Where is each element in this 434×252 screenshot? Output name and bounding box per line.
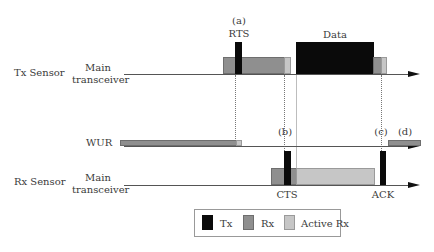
rts-label: RTS <box>222 28 256 40</box>
rx-active-rx-block <box>296 168 375 185</box>
legend: Tx Rx Active Rx <box>194 209 341 237</box>
legend-rx-swatch <box>243 215 254 230</box>
tx-active-rx-block-after-data <box>381 57 387 74</box>
cts-guide-line <box>284 75 285 151</box>
wur-timeline-axis <box>124 146 410 147</box>
tx-main-label-line1: Main <box>72 62 124 74</box>
rx-main-transceiver-label: Main transceiver <box>72 172 124 196</box>
event-d-marker: (d) <box>392 126 418 138</box>
cts-label: CTS <box>270 189 304 201</box>
legend-tx-label: Tx <box>220 218 232 230</box>
wur-rx-block-d <box>388 140 421 146</box>
event-b-marker: (b) <box>272 126 298 138</box>
rts-tx-block <box>235 42 242 74</box>
rts-guide-line <box>235 75 236 141</box>
rx-main-label-line1: Main <box>72 172 124 184</box>
ack-tx-block <box>380 151 386 185</box>
rx-axis-arrow-icon <box>408 182 420 188</box>
ack-label: ACK <box>366 189 400 201</box>
tx-sensor-label: Tx Sensor <box>14 67 65 79</box>
event-a-marker: (a) <box>222 15 256 27</box>
legend-rx-label: Rx <box>261 218 274 230</box>
wur-rx-block <box>120 140 237 146</box>
data-tx-block <box>296 42 374 74</box>
rx-sensor-label: Rx Sensor <box>14 176 66 188</box>
tx-axis-arrow-icon <box>408 71 420 77</box>
legend-active-rx-swatch <box>284 215 295 230</box>
ack-guide-line <box>381 75 382 151</box>
tx-main-label-line2: transceiver <box>72 74 124 86</box>
wur-label: WUR <box>86 137 112 149</box>
event-c-marker: (c) <box>368 126 394 138</box>
rx-main-label-line2: transceiver <box>72 184 124 196</box>
legend-active-rx-label: Active Rx <box>301 218 349 230</box>
tx-active-rx-block <box>284 57 291 74</box>
rx-timeline-axis <box>124 185 410 186</box>
wur-active-rx-block <box>236 140 242 146</box>
data-label: Data <box>310 29 360 41</box>
data-start-guide-line <box>296 74 297 168</box>
tx-timeline-axis <box>124 74 410 75</box>
legend-tx-swatch <box>202 215 213 230</box>
cts-tx-block <box>284 151 291 185</box>
tx-rx-block <box>223 57 285 74</box>
tx-main-transceiver-label: Main transceiver <box>72 62 124 86</box>
